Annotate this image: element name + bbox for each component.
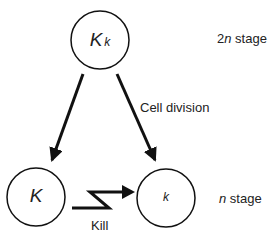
kill-arrowhead-icon [122,185,135,199]
stage-n-label: n stage [219,191,262,206]
kill-label: Kill [91,218,108,233]
stage-2n-label: 2n stage [217,31,267,46]
kill-arrow [72,192,124,208]
cell-division-label: Cell division [140,100,209,115]
allele-k: k [104,35,110,49]
diploid-cell-label: Kk [80,29,120,51]
haploid-left-label: K [16,185,56,207]
division-arrow-left [52,74,83,160]
haploid-right-label: k [146,190,186,204]
division-arrow-right [117,74,155,160]
allele-K: K [90,29,103,50]
